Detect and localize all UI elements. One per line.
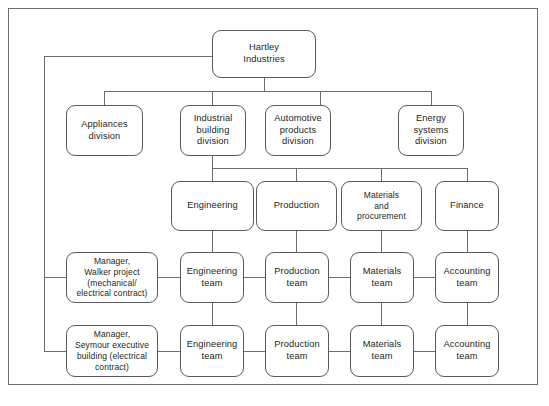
- org-chart-canvas: Hartley Industries Appliances division I…: [0, 0, 549, 406]
- connector-walker-chain-2: [244, 277, 265, 278]
- connector-prod-team1-to-team2: [296, 303, 297, 325]
- node-manager-walker-project-label: Manager, Walker project (mechanical/ ele…: [77, 256, 148, 300]
- node-materials-team-walker[interactable]: Materials team: [350, 252, 414, 303]
- node-engineering-label: Engineering: [187, 200, 238, 212]
- node-production-team-seymour-label: Production team: [274, 339, 319, 363]
- connector-hartley-left-arm: [44, 56, 213, 57]
- connector-drop-energy: [431, 91, 432, 105]
- connector-drop-industrial: [212, 91, 213, 105]
- node-energy-systems-division[interactable]: Energy systems division: [398, 105, 464, 156]
- node-manager-seymour-building-label: Manager, Seymour executive building (ele…: [75, 329, 149, 373]
- node-engineering-team-walker[interactable]: Engineering team: [180, 252, 244, 303]
- connector-divisions-bus: [104, 91, 431, 92]
- connector-walker-chain-1: [158, 277, 180, 278]
- node-appliances-division-label: Appliances division: [81, 119, 127, 143]
- node-automotive-products-division[interactable]: Automotive products division: [265, 105, 331, 156]
- node-production[interactable]: Production: [256, 181, 337, 231]
- node-industrial-building-division-label: Industrial building division: [194, 113, 233, 149]
- node-accounting-team-walker[interactable]: Accounting team: [435, 252, 499, 303]
- node-manager-walker-project[interactable]: Manager, Walker project (mechanical/ ele…: [66, 252, 158, 303]
- node-production-team-walker-label: Production team: [274, 266, 319, 290]
- node-materials-and-procurement-label: Materials and procurement: [357, 190, 406, 223]
- connector-drop-appliances: [104, 91, 105, 105]
- connector-engineering-to-team1: [212, 231, 213, 252]
- node-finance[interactable]: Finance: [435, 181, 499, 231]
- connector-projects-spine: [44, 56, 45, 351]
- node-accounting-team-seymour[interactable]: Accounting team: [435, 325, 499, 377]
- connector-drop-finance: [467, 168, 468, 181]
- node-production-team-seymour[interactable]: Production team: [265, 325, 329, 377]
- node-hartley-industries[interactable]: Hartley Industries: [212, 30, 316, 78]
- node-engineering-team-seymour[interactable]: Engineering team: [180, 325, 244, 377]
- node-industrial-building-division[interactable]: Industrial building division: [180, 105, 246, 156]
- connector-eng-team1-to-team2: [212, 303, 213, 325]
- node-materials-team-walker-label: Materials team: [363, 266, 402, 290]
- connector-walker-chain-4: [414, 277, 435, 278]
- node-materials-and-procurement[interactable]: Materials and procurement: [341, 181, 422, 231]
- connector-drop-production: [296, 168, 297, 181]
- connector-materials-to-team1: [381, 231, 382, 252]
- connector-finance-to-team1: [467, 231, 468, 252]
- connector-hartley-down: [264, 78, 265, 91]
- connector-seymour-chain-2: [244, 351, 265, 352]
- node-finance-label: Finance: [450, 200, 484, 212]
- node-engineering[interactable]: Engineering: [171, 181, 254, 231]
- connector-drop-automotive: [320, 91, 321, 105]
- connector-spine-to-mgr-walker: [44, 277, 66, 278]
- node-engineering-team-seymour-label: Engineering team: [187, 339, 238, 363]
- connector-seymour-chain-4: [414, 351, 435, 352]
- node-manager-seymour-building[interactable]: Manager, Seymour executive building (ele…: [66, 325, 158, 377]
- node-accounting-team-walker-label: Accounting team: [444, 266, 491, 290]
- node-production-team-walker[interactable]: Production team: [265, 252, 329, 303]
- connector-seymour-chain-3: [329, 351, 350, 352]
- connector-seymour-chain-1: [158, 351, 180, 352]
- node-appliances-division[interactable]: Appliances division: [66, 105, 143, 156]
- node-accounting-team-seymour-label: Accounting team: [444, 339, 491, 363]
- node-energy-systems-division-label: Energy systems division: [414, 113, 449, 149]
- connector-drop-materials: [381, 168, 382, 181]
- node-engineering-team-walker-label: Engineering team: [187, 266, 238, 290]
- node-automotive-products-division-label: Automotive products division: [274, 113, 322, 149]
- node-materials-team-seymour[interactable]: Materials team: [350, 325, 414, 377]
- connector-walker-chain-3: [329, 277, 350, 278]
- node-production-label: Production: [274, 200, 319, 212]
- node-materials-team-seymour-label: Materials team: [363, 339, 402, 363]
- connector-industrial-down: [212, 156, 213, 168]
- connector-production-to-team1: [296, 231, 297, 252]
- node-hartley-industries-label: Hartley Industries: [243, 42, 284, 66]
- connector-drop-engineering: [212, 168, 213, 181]
- connector-functions-bus: [212, 168, 467, 169]
- connector-spine-to-mgr-seymour: [44, 351, 66, 352]
- connector-acct-team1-to-team2: [467, 303, 468, 325]
- connector-mat-team1-to-team2: [381, 303, 382, 325]
